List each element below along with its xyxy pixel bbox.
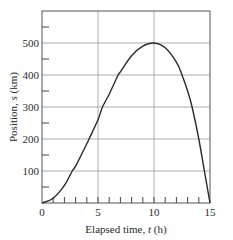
y-tick-label: 100 [23, 165, 40, 177]
y-tick-labels: 100200300400500 [23, 37, 40, 177]
y-tick-label: 500 [23, 37, 40, 49]
y-tick-label: 300 [23, 101, 40, 113]
grid-lines [42, 11, 210, 203]
x-axis-label: Elapsed time, t (h) [85, 223, 167, 236]
axis-ticks [42, 27, 199, 203]
x-tick-label: 0 [39, 206, 45, 218]
position-curve [42, 43, 210, 203]
x-tick-label: 5 [95, 206, 101, 218]
x-tick-label: 10 [149, 206, 161, 218]
position-time-chart: 051015 100200300400500 Elapsed time, t (… [0, 0, 233, 240]
y-tick-label: 400 [23, 69, 40, 81]
x-tick-label: 15 [205, 206, 217, 218]
y-tick-label: 200 [23, 133, 40, 145]
y-axis-label: Position, s (km) [7, 72, 20, 142]
x-tick-labels: 051015 [39, 206, 216, 218]
